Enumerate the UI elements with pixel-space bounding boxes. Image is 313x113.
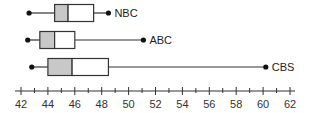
upper-quartile-box xyxy=(55,32,75,49)
upper-quartile-box xyxy=(72,59,108,76)
tick-label: 46 xyxy=(69,98,81,110)
lower-quartile-box xyxy=(48,59,72,76)
x-axis: 4244464850525456586062 xyxy=(15,87,296,110)
lower-quartile-box xyxy=(55,5,68,22)
lower-quartile-box xyxy=(40,32,55,49)
series-label: NBC xyxy=(114,7,137,19)
tick-label: 42 xyxy=(15,98,27,110)
tick-label: 60 xyxy=(257,98,269,110)
tick-label: 50 xyxy=(122,98,134,110)
min-point-icon xyxy=(25,37,30,42)
tick-label: 58 xyxy=(230,98,242,110)
max-point-icon xyxy=(106,10,111,15)
series-label: ABC xyxy=(149,34,172,46)
series-label: CBS xyxy=(272,61,295,73)
max-point-icon xyxy=(141,37,146,42)
box-plot-nbc: NBC xyxy=(26,5,137,22)
upper-quartile-box xyxy=(68,5,94,22)
tick-label: 62 xyxy=(284,98,296,110)
min-point-icon xyxy=(26,10,31,15)
tick-label: 52 xyxy=(149,98,161,110)
max-point-icon xyxy=(263,64,268,69)
tick-label: 54 xyxy=(176,98,188,110)
box-plot-chart: NBCABCCBS4244464850525456586062 xyxy=(0,0,313,113)
min-point-icon xyxy=(29,64,34,69)
tick-label: 48 xyxy=(96,98,108,110)
box-plot-abc: ABC xyxy=(25,32,172,49)
tick-label: 56 xyxy=(203,98,215,110)
box-plot-cbs: CBS xyxy=(29,59,294,76)
tick-label: 44 xyxy=(42,98,54,110)
